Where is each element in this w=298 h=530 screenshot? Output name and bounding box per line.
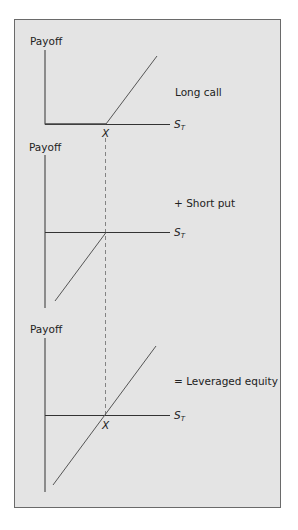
panel-long-call: Payoff ST X Long call	[30, 35, 222, 139]
panel-caption: + Short put	[174, 197, 235, 209]
payoff-line	[106, 56, 157, 124]
y-axis-label: Payoff	[30, 323, 63, 335]
payoff-diagram: Payoff ST X Long call Payoff ST + Short …	[0, 0, 298, 530]
y-axis-label: Payoff	[30, 35, 63, 47]
panel-caption: Long call	[175, 86, 222, 98]
panel-short-put: Payoff ST + Short put	[29, 141, 235, 308]
panel-caption: = Leveraged equity	[174, 375, 278, 387]
x-axis-label: ST	[174, 118, 186, 132]
payoff-line	[55, 233, 106, 302]
strike-label: X	[101, 127, 110, 139]
x-axis-label: ST	[174, 409, 186, 423]
strike-label: X	[101, 419, 110, 431]
panel-leveraged-equity: Payoff ST X = Leveraged equity	[30, 323, 278, 492]
x-axis-label: ST	[174, 226, 186, 240]
y-axis-label: Payoff	[29, 141, 62, 153]
